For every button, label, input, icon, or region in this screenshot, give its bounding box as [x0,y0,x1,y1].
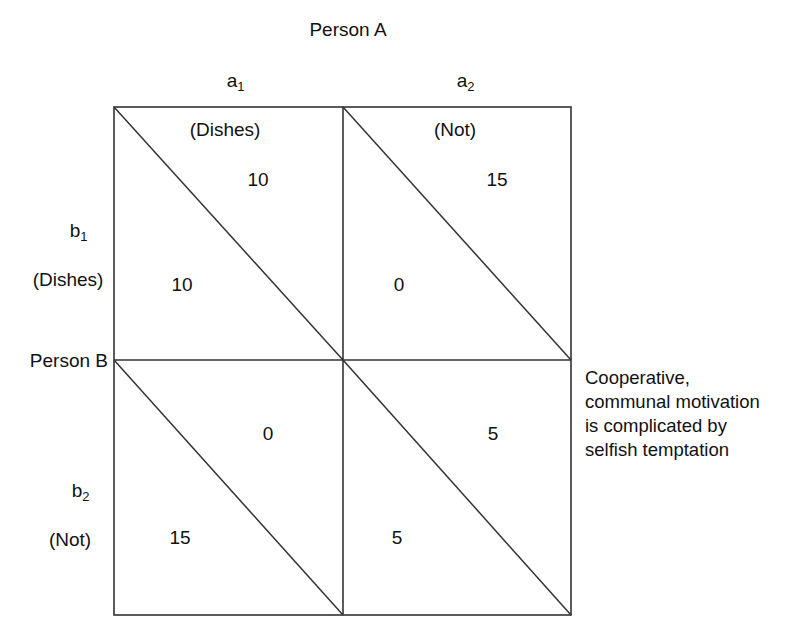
column-header-a2-strategy: (Not) [434,118,476,141]
row-header-b2-strategy: (Not) [49,528,91,551]
row-header-b1: b1 (Dishes) [33,196,104,337]
column-header-a1-subscript: 1 [237,79,244,94]
column-header-a1-symbol: a1 [227,70,245,91]
payoff-b-a1b1: 10 [171,274,192,296]
payoff-a-a1b1: 10 [247,169,268,191]
column-header-a1: a1 (Dishes) [190,46,261,187]
row-header-b2-symbol: b2 [72,480,90,501]
caption-line-4: selfish temptation [585,438,785,462]
payoff-b-a2b2: 5 [392,527,403,549]
payoff-a-a2b1: 15 [486,169,507,191]
cell-diagonal-a2b2 [343,360,571,615]
caption-line-3: is complicated by [585,414,785,438]
payoff-a-a1b2: 0 [263,423,274,445]
diagram-caption: Cooperative, communal motivation is comp… [585,366,785,462]
column-header-a2-symbol: a2 [457,70,475,91]
row-header-b1-strategy: (Dishes) [33,268,104,291]
caption-line-1: Cooperative, [585,366,785,390]
row-header-b1-subscript: 1 [80,229,87,244]
payoff-a-a2b2: 5 [488,423,499,445]
payoff-b-a2b1: 0 [394,274,405,296]
person-b-title: Person B [30,349,108,372]
diagram-canvas: Person A a1 (Dishes) a2 (Not) b1 (Dishes… [0,0,794,633]
column-header-a1-strategy: (Dishes) [190,118,261,141]
column-header-a2-subscript: 2 [467,79,474,94]
payoff-b-a1b2: 15 [169,527,190,549]
cell-diagonal-a1b2 [114,360,343,615]
row-header-b2-subscript: 2 [82,489,89,504]
person-a-title: Person A [309,18,386,41]
row-header-b2: b2 (Not) [49,456,91,597]
caption-line-2: communal motivation [585,390,785,414]
row-header-b1-symbol: b1 [70,220,88,241]
column-header-a2: a2 (Not) [434,46,476,187]
